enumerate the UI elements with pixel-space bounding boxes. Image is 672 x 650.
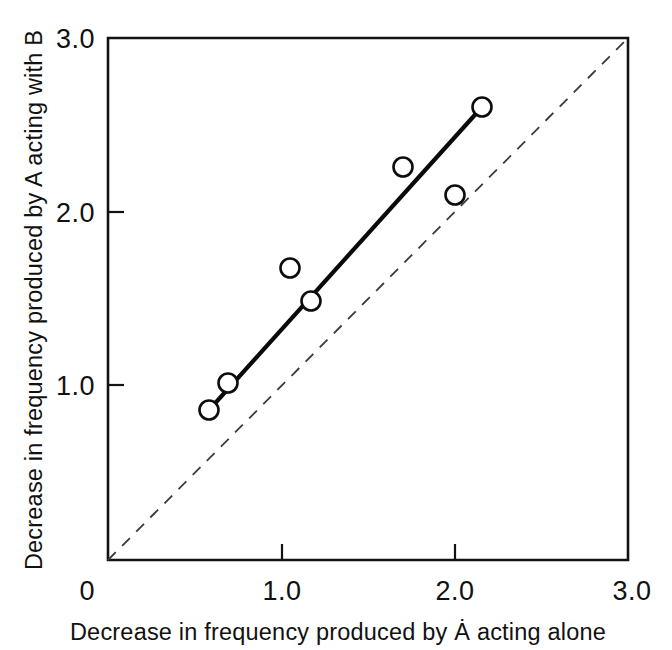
y-axis-ticks [108, 212, 124, 385]
data-point [219, 374, 238, 393]
x-axis-title: Decrease in frequency produced by Ȧ act… [70, 619, 606, 645]
data-point [200, 401, 219, 420]
scatter-plot-figure: 3.0 2.0 1.0 0 1.0 2.0 3.0 Decrease in fr… [0, 0, 672, 650]
fitted-regression-line [209, 107, 482, 410]
y-tick-label-1: 1.0 [56, 371, 95, 401]
x-tick-label-2: 2.0 [435, 576, 474, 606]
identity-reference-line [108, 38, 628, 560]
data-point [302, 292, 321, 311]
y-tick-label-0: 0 [79, 576, 95, 606]
y-tick-label-2: 2.0 [56, 198, 95, 228]
x-tick-label-1: 1.0 [262, 576, 301, 606]
y-tick-labels: 3.0 2.0 1.0 0 [56, 24, 95, 606]
y-tick-label-3: 3.0 [56, 24, 95, 54]
x-tick-label-3: 3.0 [612, 576, 651, 606]
data-point [281, 259, 300, 278]
x-tick-labels: 1.0 2.0 3.0 [262, 576, 651, 606]
x-axis-ticks [282, 544, 455, 560]
data-point [394, 158, 413, 177]
data-point [446, 186, 465, 205]
data-point [473, 98, 492, 117]
y-axis-title: Decrease in frequency produced by A acti… [21, 30, 47, 570]
plot-canvas: 3.0 2.0 1.0 0 1.0 2.0 3.0 Decrease in fr… [0, 0, 672, 650]
